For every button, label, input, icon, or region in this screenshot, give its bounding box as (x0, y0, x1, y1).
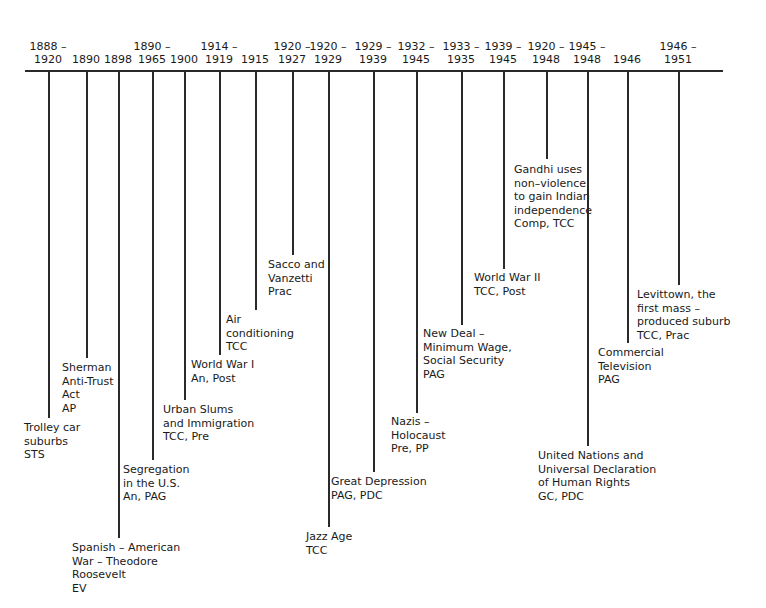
event-connector-line (255, 71, 257, 310)
event-connector-line (503, 71, 505, 269)
event-connector-line (48, 71, 50, 418)
event-connector-line (627, 71, 629, 343)
event-connector-line (678, 71, 680, 285)
event-year: 1946 – 1951 (648, 40, 708, 66)
event-label: Segregation in the U.S. An, PAG (123, 463, 190, 504)
event-label: Sherman Anti-Trust Act AP (62, 361, 113, 415)
event-connector-line (416, 71, 418, 413)
event-connector-line (292, 71, 294, 255)
event-connector-line (118, 71, 120, 538)
event-label: Great Depression PAG, PDC (331, 475, 427, 502)
event-label: Sacco and Vanzetti Prac (268, 258, 325, 299)
event-label: Nazis – Holocaust Pre, PP (391, 415, 446, 456)
event-connector-line (184, 71, 186, 400)
event-label: Commercial Television PAG (598, 346, 664, 387)
event-label: World War I An, Post (191, 358, 254, 385)
event-label: Jazz Age TCC (306, 530, 352, 557)
event-label: Spanish – American War – Theodore Roosev… (72, 541, 180, 595)
event-connector-line (86, 71, 88, 358)
event-connector-line (587, 71, 589, 446)
event-label: Air conditioning TCC (226, 313, 294, 354)
event-connector-line (461, 71, 463, 325)
event-connector-line (152, 71, 154, 460)
event-connector-line (373, 71, 375, 472)
event-label: United Nations and Universal Declaration… (538, 449, 656, 503)
event-connector-line (328, 71, 330, 527)
event-connector-line (219, 71, 221, 355)
event-label: Gandhi uses non–violence to gain Indian … (514, 163, 592, 231)
event-label: Urban Slums and Immigration TCC, Pre (163, 403, 254, 444)
event-label: Levittown, the first mass – produced sub… (637, 288, 730, 342)
event-label: Trolley car suburbs STS (24, 421, 80, 462)
event-label: World War II TCC, Post (474, 271, 540, 298)
event-label: New Deal – Minimum Wage, Social Security… (423, 327, 512, 381)
event-connector-line (546, 71, 548, 159)
